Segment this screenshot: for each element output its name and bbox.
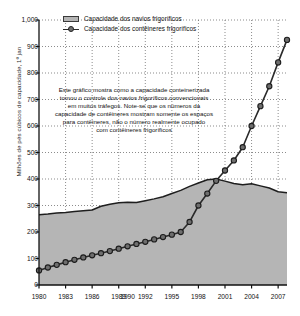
annotation-line: para contêineres, não o número realmente… <box>44 118 224 126</box>
line-series-marker <box>187 219 192 224</box>
chart-container: Milhões de pés cúbicos de capacidade, 1º… <box>0 0 300 316</box>
line-series-marker <box>231 158 236 163</box>
plot-area <box>0 0 300 316</box>
legend-label-line: Capacidade dos contêineres frigoríficos <box>84 24 196 34</box>
line-series-marker <box>90 253 95 258</box>
legend-item-line: Capacidade dos contêineres frigoríficos <box>63 24 196 34</box>
line-series-marker <box>45 265 50 270</box>
line-series-marker <box>116 246 121 251</box>
annotation-line: em muitos tráfegos. Note-se que os númer… <box>44 102 224 110</box>
chart-legend: Capacidade dos navios frigoríficos Capac… <box>63 14 196 34</box>
x-axis-tick-label: 1990 <box>120 293 135 300</box>
line-series-marker <box>98 251 103 256</box>
line-series-marker <box>205 191 210 196</box>
x-axis-tick-label: 1983 <box>58 293 73 300</box>
x-axis-tick-label: 1995 <box>165 293 180 300</box>
area-swatch-icon <box>63 16 79 22</box>
annotation-line: Este gráfico mostra como a capacidade co… <box>44 86 224 94</box>
line-series-marker <box>249 123 254 128</box>
x-axis-tick-labels: 1980198319861989199019921995199820012004… <box>0 293 300 307</box>
line-marker-swatch-icon <box>63 26 79 32</box>
x-axis-tick-label: 1992 <box>138 293 153 300</box>
legend-item-area: Capacidade dos navios frigoríficos <box>63 14 196 24</box>
line-series-marker <box>196 203 201 208</box>
chart-annotation: Este gráfico mostra como a capacidade co… <box>44 86 224 135</box>
line-series-marker <box>240 145 245 150</box>
line-series-marker <box>134 241 139 246</box>
line-series-marker <box>284 37 289 42</box>
annotation-line: capacidade de contêineres mostram soment… <box>44 110 224 118</box>
x-axis-tick-label: 2004 <box>244 293 259 300</box>
line-series-marker <box>152 237 157 242</box>
line-series-marker <box>107 248 112 253</box>
annotation-line: com contêineres frigoríficos <box>44 126 224 134</box>
line-series-marker <box>178 229 183 234</box>
x-axis-tick-label: 2007 <box>271 293 286 300</box>
line-series-marker <box>143 239 148 244</box>
line-series-marker <box>81 255 86 260</box>
line-series-marker <box>214 178 219 183</box>
line-series-marker <box>160 234 165 239</box>
line-series-marker <box>54 262 59 267</box>
line-series-marker <box>258 104 263 109</box>
x-axis-tick-label: 1986 <box>85 293 100 300</box>
line-series-marker <box>169 232 174 237</box>
x-axis-tick-label: 1980 <box>32 293 47 300</box>
legend-label-area: Capacidade dos navios frigoríficos <box>84 14 182 24</box>
annotation-line: tomou o controle dos navios frigoríficos… <box>44 94 224 102</box>
line-series-marker <box>63 260 68 265</box>
line-series-marker <box>222 168 227 173</box>
line-series-marker <box>125 244 130 249</box>
line-series-marker <box>72 257 77 262</box>
x-axis-tick-label: 1998 <box>191 293 206 300</box>
x-axis-tick-label: 2001 <box>218 293 233 300</box>
line-series-marker <box>276 60 281 65</box>
line-series-marker <box>267 84 272 89</box>
area-series-fill <box>39 179 287 285</box>
